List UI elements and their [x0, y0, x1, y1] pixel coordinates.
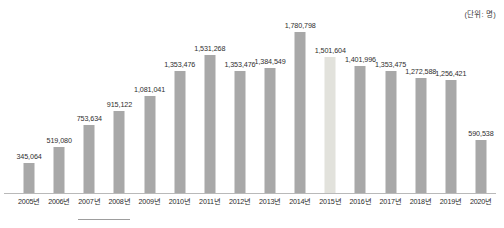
bar-value-label: 1,501,604 [315, 46, 346, 55]
bar-group: 590,538 [466, 16, 496, 194]
x-axis-line [4, 193, 496, 194]
x-axis-tick-label: 2020년 [470, 196, 492, 206]
x-axis-tick-label: 2017년 [380, 196, 402, 206]
bar-value-label: 1,780,798 [285, 21, 316, 30]
bar [445, 80, 456, 194]
x-axis-tick-label: 2008년 [108, 196, 130, 206]
bar-group: 1,353,476 [165, 16, 195, 194]
bar-plot-area: 345,064519,080753,634915,1221,081,0411,3… [0, 16, 504, 194]
bar [355, 66, 366, 194]
bar [84, 125, 95, 194]
bar-group: 915,122 [104, 16, 134, 194]
bar-group: 519,080 [44, 16, 74, 194]
bar [24, 163, 35, 194]
chart-page: (단위: 명) 345,064519,080753,634915,1221,08… [0, 0, 504, 228]
bar-value-label: 1,256,421 [435, 69, 466, 78]
x-axis-tick-label: 2006년 [48, 196, 70, 206]
x-axis-tick-label: 2007년 [78, 196, 100, 206]
bar-group: 1,272,588 [406, 16, 436, 194]
bar-group: 1,531,268 [195, 16, 225, 194]
bar [204, 55, 215, 194]
bar-value-label: 753,634 [77, 114, 102, 123]
bar [265, 68, 276, 194]
x-axis-tick-label: 2009년 [139, 196, 161, 206]
bar [385, 71, 396, 194]
x-axis-label-row: 2005년2006년2007년2008년2009년2010년2011년2012년… [0, 196, 504, 210]
bar [234, 71, 245, 194]
bar-value-label: 1,401,996 [345, 55, 376, 64]
bar [475, 140, 486, 194]
bar-group: 1,501,604 [315, 16, 345, 194]
bar-value-label: 915,122 [107, 100, 132, 109]
bar [325, 57, 336, 194]
x-axis-tick-label: 2012년 [229, 196, 251, 206]
bar-value-label: 1,353,476 [164, 60, 195, 69]
x-axis-tick-label: 2014년 [289, 196, 311, 206]
bar-value-label: 345,064 [16, 152, 41, 161]
bar-group: 1,353,475 [376, 16, 406, 194]
bar-group: 1,384,549 [255, 16, 285, 194]
bar [114, 111, 125, 194]
footer-rule [78, 219, 130, 220]
bar-value-label: 1,081,041 [134, 85, 165, 94]
bar-value-label: 1,353,476 [224, 60, 255, 69]
bar-group: 753,634 [74, 16, 104, 194]
bar-group: 1,081,041 [135, 16, 165, 194]
bar [295, 32, 306, 194]
bar [54, 147, 65, 194]
bar-group: 345,064 [14, 16, 44, 194]
x-axis-tick-label: 2019년 [440, 196, 462, 206]
bar-group: 1,353,476 [225, 16, 255, 194]
x-axis-tick-label: 2013년 [259, 196, 281, 206]
bar-group: 1,256,421 [436, 16, 466, 194]
bar-value-label: 1,353,475 [375, 60, 406, 69]
bar-group: 1,780,798 [285, 16, 315, 194]
bar-group: 1,401,996 [345, 16, 375, 194]
x-axis-tick-label: 2011년 [199, 196, 220, 206]
bar-value-label: 590,538 [468, 129, 493, 138]
bar-value-label: 1,531,268 [194, 44, 225, 53]
x-axis-tick-label: 2015년 [319, 196, 341, 206]
x-axis-tick-label: 2016년 [349, 196, 371, 206]
bar-value-label: 1,272,588 [405, 67, 436, 76]
bar [144, 96, 155, 194]
bar-value-label: 519,080 [47, 136, 72, 145]
bar [174, 71, 185, 194]
bar [415, 78, 426, 194]
x-axis-tick-label: 2018년 [410, 196, 432, 206]
x-axis-tick-label: 2005년 [18, 196, 40, 206]
x-axis-tick-label: 2010년 [169, 196, 191, 206]
bar-value-label: 1,384,549 [255, 57, 286, 66]
